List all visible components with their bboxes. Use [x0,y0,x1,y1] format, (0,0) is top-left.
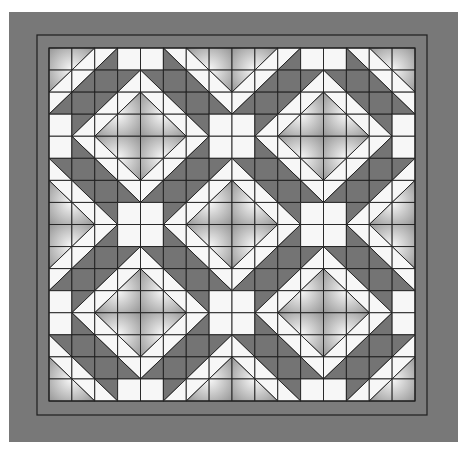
quilt-grid [49,48,415,401]
quilt-image [0,0,466,454]
